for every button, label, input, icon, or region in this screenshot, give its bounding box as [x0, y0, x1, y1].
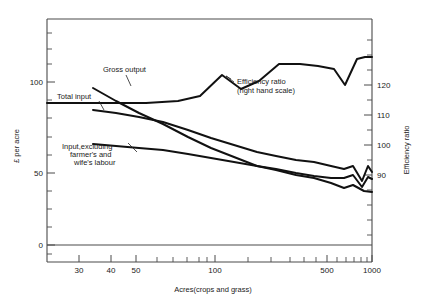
label-efficiency-ratio: Efficiency ratio [237, 77, 286, 86]
x-tick-1000: 1000 [363, 266, 381, 275]
y-tick-0: 0 [39, 241, 44, 250]
x-tick-500: 500 [320, 266, 334, 275]
y2-tick-100: 100 [377, 141, 391, 150]
y-axis-title: £ per acre [12, 129, 21, 163]
label-efficiency-ratio-note: (right hand scale) [237, 86, 295, 95]
label-total-input: Total input [57, 92, 92, 101]
label-gross-output: Gross output [103, 65, 147, 74]
y2-tick-120: 120 [377, 81, 391, 90]
y-tick-50: 50 [34, 169, 43, 178]
x-tick-40: 40 [107, 266, 116, 275]
y-tick-100: 100 [30, 78, 44, 87]
y2-tick-90: 90 [377, 171, 386, 180]
x-tick-30: 30 [75, 266, 84, 275]
annotation-efficiency-ratio: Efficiency ratio (right hand scale) [226, 76, 295, 95]
chart-svg: 100 50 0 £ per acre 120 110 100 90 Effic… [0, 0, 424, 305]
x-axis-title: Acres(crops and grass) [174, 285, 252, 294]
x-tick-50: 50 [132, 266, 141, 275]
chart-background [0, 0, 424, 305]
x-tick-100: 100 [208, 266, 222, 275]
y2-axis-title: Efficiency ratio [402, 126, 411, 175]
label-input-excl-line3: wife's labour [73, 158, 116, 167]
y2-tick-110: 110 [377, 111, 390, 120]
chart-figure: 100 50 0 £ per acre 120 110 100 90 Effic… [0, 0, 424, 305]
